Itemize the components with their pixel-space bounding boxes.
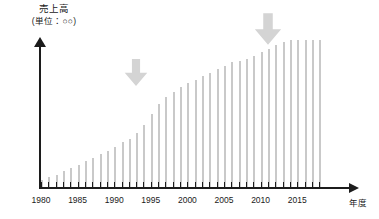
bar [275,45,277,187]
x-axis-tick-label: 1985 [58,195,98,205]
bar [268,49,270,187]
bar [129,139,131,187]
x-axis-tick [209,182,210,188]
x-axis-tick [41,182,42,188]
x-axis-tick [114,182,115,188]
x-axis-tick [297,182,298,188]
x-axis-tick [56,182,57,188]
x-axis-tick [70,182,71,188]
bar [224,66,226,187]
x-axis-tick [253,182,254,188]
x-axis-label: 年度 [349,196,367,208]
x-axis-tick [122,182,123,188]
bar [122,142,124,187]
bar [136,133,138,187]
bar [173,92,175,187]
x-axis-tick [151,182,152,188]
x-axis-tick [275,182,276,188]
x-axis-tick [312,182,313,188]
x-axis-tick [63,182,64,188]
bar [246,59,248,187]
x-axis-tick [283,182,284,188]
x-axis-tick [305,182,306,188]
bar [290,40,292,187]
bar [319,40,321,187]
sales-bar-chart: 売上高 (単位：○○) 年度 1980198519901995200020052… [0,0,379,219]
x-axis-tick [136,182,137,188]
x-axis-tick-label: 1995 [131,195,171,205]
x-axis-tick [143,182,144,188]
x-axis-tick [319,182,320,188]
x-axis-tick [224,182,225,188]
first-inflection-arrow [124,59,148,86]
bar [202,76,204,187]
x-axis-tick-label: 2015 [277,195,317,205]
x-axis-tick [268,182,269,188]
x-axis-tick [239,182,240,188]
x-axis-tick [180,182,181,188]
bar [151,114,153,187]
x-axis-tick [158,182,159,188]
bar [180,87,182,187]
x-axis-tick [231,182,232,188]
x-axis-tick [173,182,174,188]
bar [312,40,314,187]
arrow-down-icon [254,13,282,45]
arrow-down-icon [124,59,148,86]
x-axis-tick-label: 1980 [21,195,61,205]
bar [217,69,219,187]
x-axis-tick [85,182,86,188]
bar [305,40,307,187]
x-axis-tick [202,182,203,188]
bar [143,125,145,187]
bar [239,61,241,187]
x-axis-tick [195,182,196,188]
x-axis-tick [290,182,291,188]
bar [187,83,189,187]
x-axis-tick [246,182,247,188]
bar [195,80,197,187]
bar [158,104,160,187]
x-axis-tick [187,182,188,188]
x-axis-tick [92,182,93,188]
x-axis-tick [48,182,49,188]
bar [165,97,167,187]
x-axis-tick [129,182,130,188]
x-axis-tick [165,182,166,188]
x-axis-tick-label: 2010 [241,195,281,205]
x-axis-tick-label: 2005 [204,195,244,205]
bar [261,52,263,187]
bar [297,40,299,187]
bar [231,62,233,187]
x-axis-tick [261,182,262,188]
bar [209,73,211,187]
x-axis-tick-label: 1990 [94,195,134,205]
bar [283,42,285,187]
x-axis-tick [100,182,101,188]
second-inflection-arrow [254,13,282,45]
x-axis-tick [107,182,108,188]
plot-area [41,14,347,187]
x-axis-tick-label: 2000 [167,195,207,205]
bar [253,56,255,187]
x-axis-tick [217,182,218,188]
x-axis-arrowhead-icon [349,183,359,193]
x-axis-tick [78,182,79,188]
